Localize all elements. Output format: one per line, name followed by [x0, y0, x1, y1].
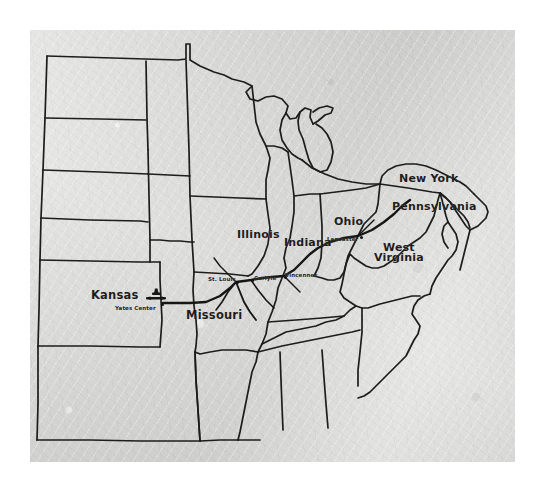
city-label-lancaster: Lancaster [327, 236, 358, 242]
state-label-pennsylvania: Pennsylvania [392, 200, 477, 213]
city-dot-vincennes [284, 276, 287, 279]
state-label-illinois: Illinois [237, 228, 280, 241]
city-dot-st-louis [236, 281, 239, 284]
state-label-new-york: New York [399, 172, 459, 185]
aircraft-icon [146, 289, 166, 300]
city-dot-lancaster [360, 236, 363, 239]
state-label-ohio: Ohio [334, 215, 363, 228]
city-dot-yates-center [161, 303, 164, 306]
state-label-missouri: Missouri [186, 308, 242, 322]
state-label-west-virginia: West Virginia [374, 243, 424, 263]
city-label-vincennes: Vincennes [285, 272, 318, 278]
city-label-carlyle: Carlyle [254, 275, 276, 281]
city-label-st-louis: St. Louis [208, 276, 236, 282]
city-dot-carlyle [251, 279, 254, 282]
state-label-indiana: Indiana [284, 236, 332, 249]
us-state-outline-map [0, 0, 548, 487]
map-image: Kansas Missouri Illinois Indiana Ohio Pe… [0, 0, 548, 487]
city-label-yates-center: Yates Center [115, 305, 156, 311]
state-label-west-virginia-line2: Virginia [374, 253, 424, 263]
flight-route-line [163, 200, 410, 320]
state-label-kansas: Kansas [91, 288, 139, 302]
